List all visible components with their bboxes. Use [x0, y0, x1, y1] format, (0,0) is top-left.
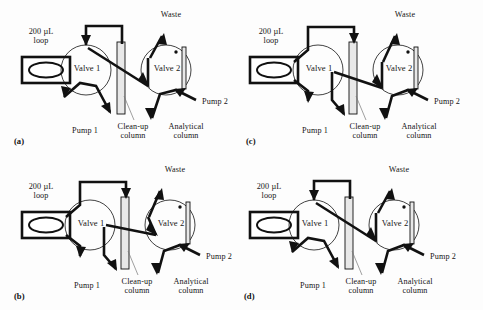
- pump1-label: Pump 1: [60, 126, 110, 135]
- figure-canvas: 200 µL loop Valve 1 Valve 2 Waste Pump 1…: [0, 0, 483, 310]
- cleanup-leader-line: [352, 251, 362, 275]
- waste-label: Waste: [152, 165, 198, 174]
- valve2-label: Valve 2: [142, 64, 192, 73]
- transfer-line-loop-to-column: [294, 27, 354, 62]
- valve2-label: Valve 2: [374, 64, 424, 73]
- valve1-label: Valve 1: [62, 64, 112, 73]
- arrow-waste: [390, 33, 400, 45]
- panel-tag-b: (b): [14, 291, 25, 301]
- cleanup-column-body: [117, 42, 125, 114]
- analytical-column-label: Analytical column: [159, 122, 213, 141]
- arrow-waste: [385, 188, 395, 200]
- pump2-label: Pump 2: [192, 97, 238, 106]
- valve1-label: Valve 1: [66, 219, 116, 228]
- analytical-column-label: Analytical column: [164, 277, 218, 296]
- valve2-position-dot: [178, 205, 181, 208]
- arrow-waste: [157, 33, 167, 45]
- arrow-cleanup-out: [101, 102, 111, 114]
- loop-label: 200 µL loop: [242, 182, 296, 201]
- valve1-label: Valve 1: [294, 64, 344, 73]
- loop-label: 200 µL loop: [14, 27, 68, 46]
- cleanup-column-body: [121, 197, 129, 269]
- flow-pump2-to-analytical: [152, 90, 196, 118]
- analytical-column-label: Analytical column: [392, 122, 446, 141]
- panel-c: 200 µL loop Valve 1 Valve 2 Waste Pump 1…: [242, 0, 483, 155]
- arrow-pump1-into-valve1: [304, 91, 314, 103]
- cleanup-leader-line: [356, 96, 366, 120]
- flow-pump1-to-loop: [294, 80, 308, 101]
- arrow-waste: [154, 188, 164, 200]
- cleanup-column-label: Clean-up column: [108, 122, 158, 141]
- panel-b: 200 µL loop Valve 1 Valve 2 Waste Pump 1…: [0, 155, 241, 310]
- cleanup-column-body: [345, 197, 353, 269]
- arrow-pump2: [402, 243, 414, 252]
- transfer-line-loop-to-column: [66, 182, 126, 217]
- cleanup-column-label: Clean-up column: [336, 277, 386, 296]
- valve2-position-dot: [174, 50, 177, 53]
- pump1-label: Pump 1: [290, 126, 340, 135]
- arrow-pump2: [174, 88, 186, 97]
- analytical-column-label: Analytical column: [388, 277, 442, 296]
- waste-label: Waste: [382, 10, 428, 19]
- panel-d: 200 µL loop Valve 1 Valve 2 Waste Pump 1…: [242, 155, 483, 310]
- pump2-label: Pump 2: [424, 97, 470, 106]
- panel-tag-d: (d): [244, 291, 255, 301]
- pump2-label: Pump 2: [196, 252, 242, 261]
- arrow-into-valve1: [309, 190, 319, 201]
- cleanup-column-label: Clean-up column: [340, 122, 390, 141]
- arrow-pump1-into-valve1: [76, 246, 86, 258]
- waste-label: Waste: [148, 10, 194, 19]
- arrow-pump2: [178, 243, 190, 252]
- valve2-position-dot: [406, 50, 409, 53]
- valve2-position-dot: [402, 205, 405, 208]
- cleanup-leader-line: [128, 251, 138, 275]
- pump1-label: Pump 1: [62, 281, 112, 290]
- pump2-label: Pump 2: [420, 252, 466, 261]
- loop-label: 200 µL loop: [244, 27, 298, 46]
- arrow-into-valve1: [81, 35, 91, 46]
- waste-label: Waste: [376, 165, 422, 174]
- cleanup-leader-line: [124, 96, 134, 120]
- flow-pump1-to-loop: [66, 235, 80, 256]
- loop-label: 200 µL loop: [14, 182, 68, 201]
- panel-tag-c: (c): [246, 136, 256, 146]
- arrow-cleanup-out: [329, 257, 339, 269]
- cleanup-column-label: Clean-up column: [112, 277, 162, 296]
- valve2-label: Valve 2: [370, 219, 420, 228]
- valve2-label: Valve 2: [146, 219, 196, 228]
- arrow-pump2: [406, 88, 418, 97]
- panel-tag-a: (a): [14, 136, 24, 146]
- pump1-label: Pump 1: [288, 281, 338, 290]
- panel-a: 200 µL loop Valve 1 Valve 2 Waste Pump 1…: [0, 0, 241, 155]
- valve1-label: Valve 1: [290, 219, 340, 228]
